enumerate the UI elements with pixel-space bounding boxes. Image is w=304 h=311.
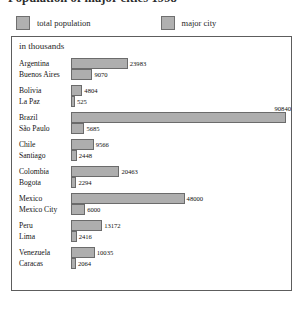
bar-city xyxy=(71,123,84,134)
legend-item-total-population: total population xyxy=(16,15,91,31)
city-label: Santiago xyxy=(19,150,71,161)
bar-city xyxy=(71,150,77,161)
country-group: Bolivia4804La Paz525 xyxy=(12,85,293,110)
city-label: Bogota xyxy=(19,177,71,188)
plot-frame: in thousands Argentina23983Buenos Aires9… xyxy=(11,36,292,291)
bar-row-city: São Paulo5685 xyxy=(12,123,293,134)
bar-value-label: 2294 xyxy=(78,177,91,188)
country-group: Brazil90840São Paulo5685 xyxy=(12,112,293,137)
bar-rows-container: Argentina23983Buenos Aires9070Bolivia480… xyxy=(12,58,293,274)
legend-swatch-major-city xyxy=(161,16,175,30)
country-label: Bolivia xyxy=(19,85,71,96)
bar-value-label: 23983 xyxy=(130,58,146,69)
bar-city xyxy=(71,231,77,242)
bar-value-label: 9566 xyxy=(96,139,109,150)
bar-row-country: Bolivia4804 xyxy=(12,85,293,96)
city-label: Mexico City xyxy=(19,204,71,215)
bar-country xyxy=(71,139,94,150)
bar-value-label: 4804 xyxy=(84,85,97,96)
bar-row-city: Buenos Aires9070 xyxy=(12,69,293,80)
bar-row-country: Chile9566 xyxy=(12,139,293,150)
bar-country xyxy=(71,193,185,204)
city-label: Caracas xyxy=(19,258,71,269)
country-group: Mexico48000Mexico City6000 xyxy=(12,193,293,218)
bar-city xyxy=(71,204,85,215)
chart-title: Population of major cities 1998 xyxy=(8,0,298,5)
bar-value-label: 48000 xyxy=(187,193,203,204)
bar-value-label: 525 xyxy=(77,96,87,107)
bar-row-city: Lima2416 xyxy=(12,231,293,242)
country-group: Chile9566Santiago2448 xyxy=(12,139,293,164)
country-group: Peru13172Lima2416 xyxy=(12,220,293,245)
country-label: Chile xyxy=(19,139,71,150)
bar-value-label: 2416 xyxy=(79,231,92,242)
city-label: La Paz xyxy=(19,96,71,107)
bar-row-country: Peru13172 xyxy=(12,220,293,231)
bar-row-city: Caracas2064 xyxy=(12,258,293,269)
bar-country xyxy=(71,220,102,231)
bar-row-city: Bogota2294 xyxy=(12,177,293,188)
bar-row-city: Mexico City6000 xyxy=(12,204,293,215)
legend-label-total-population: total population xyxy=(37,18,91,28)
bar-value-label: 6000 xyxy=(87,204,100,215)
legend-swatch-total-population xyxy=(16,16,30,30)
bar-value-label: 13172 xyxy=(104,220,120,231)
bar-value-label: 5685 xyxy=(86,123,99,134)
city-label: São Paulo xyxy=(19,123,71,134)
bar-value-label: 9070 xyxy=(94,69,107,80)
country-label: Peru xyxy=(19,220,71,231)
city-label: Buenos Aires xyxy=(19,69,71,80)
bar-row-country: Colombia20463 xyxy=(12,166,293,177)
bar-value-label: 90840 xyxy=(275,103,291,114)
bar-city xyxy=(71,69,92,80)
bar-row-city: La Paz525 xyxy=(12,96,293,107)
bar-value-label: 2064 xyxy=(78,258,91,269)
legend-item-major-city: major city xyxy=(161,15,217,31)
bar-country xyxy=(71,166,119,177)
bar-value-label: 10035 xyxy=(97,247,113,258)
bar-row-country: Brazil90840 xyxy=(12,112,293,123)
country-group: Colombia20463Bogota2294 xyxy=(12,166,293,191)
country-label: Venezuela xyxy=(19,247,71,258)
bar-country xyxy=(71,85,82,96)
country-label: Colombia xyxy=(19,166,71,177)
legend: total population major city xyxy=(16,15,216,31)
bar-row-country: Mexico48000 xyxy=(12,193,293,204)
units-label: in thousands xyxy=(19,41,64,52)
bar-city xyxy=(71,96,75,107)
country-label: Brazil xyxy=(19,112,71,123)
bar-city xyxy=(71,258,76,269)
bar-row-country: Venezuela10035 xyxy=(12,247,293,258)
bar-country xyxy=(71,58,128,69)
country-group: Argentina23983Buenos Aires9070 xyxy=(12,58,293,83)
bar-row-country: Argentina23983 xyxy=(12,58,293,69)
country-group: Venezuela10035Caracas2064 xyxy=(12,247,293,272)
city-label: Lima xyxy=(19,231,71,242)
bar-country xyxy=(71,112,286,123)
country-label: Argentina xyxy=(19,58,71,69)
country-label: Mexico xyxy=(19,193,71,204)
bar-value-label: 2448 xyxy=(79,150,92,161)
bar-row-city: Santiago2448 xyxy=(12,150,293,161)
legend-label-major-city: major city xyxy=(182,18,217,28)
bar-city xyxy=(71,177,76,188)
bar-value-label: 20463 xyxy=(121,166,137,177)
bar-country xyxy=(71,247,95,258)
